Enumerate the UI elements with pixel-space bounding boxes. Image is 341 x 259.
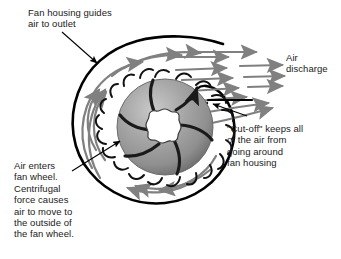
fan-diagram-canvas: Fan housing guides air to outlet Air dis… (0, 0, 341, 259)
label-air-enters: Air enters fan wheel. Centrifugal force … (14, 160, 74, 240)
label-fan-housing: Fan housing guides air to outlet (28, 7, 112, 30)
leader-housing (62, 32, 97, 63)
label-cut-off: "Cut-off" keeps all of the air from goin… (227, 123, 303, 169)
wheel-hub (146, 109, 181, 143)
label-air-discharge: Air discharge (286, 52, 328, 75)
fan-wheel (96, 69, 234, 186)
